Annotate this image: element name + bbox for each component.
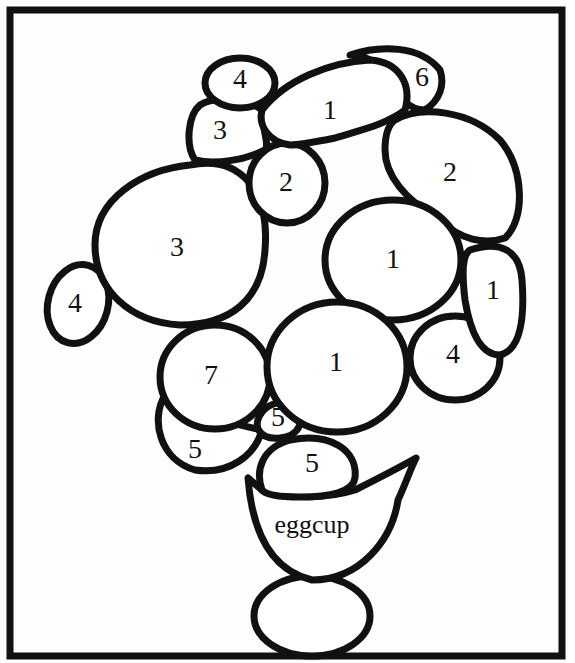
label-r3: 1 [323, 94, 337, 125]
label-r15: 5 [188, 433, 202, 464]
label-r11: 7 [204, 359, 218, 390]
label-r10: 4 [68, 287, 82, 318]
label-r5: 2 [279, 166, 293, 197]
eggcup-label: eggcup [274, 510, 349, 539]
label-r7: 3 [170, 231, 184, 262]
label-r14: 5 [271, 401, 285, 432]
label-r6: 2 [443, 156, 457, 187]
label-r4: 3 [213, 114, 227, 145]
label-r12: 1 [329, 346, 343, 377]
diagram-canvas: 4 6 1 3 2 2 3 1 1 4 7 1 4 5 5 5 eggcup [0, 0, 575, 663]
label-r16: 5 [305, 447, 319, 478]
label-r9: 1 [486, 274, 500, 305]
label-r2: 6 [415, 61, 429, 92]
diagram-svg: 4 6 1 3 2 2 3 1 1 4 7 1 4 5 5 5 eggcup [0, 0, 575, 663]
label-r8: 1 [386, 243, 400, 274]
label-r1: 4 [233, 63, 247, 94]
label-r13: 4 [446, 338, 460, 369]
eggcup-base [254, 576, 370, 656]
